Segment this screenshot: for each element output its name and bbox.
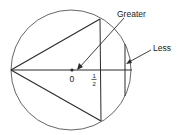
less-arrow	[129, 50, 151, 62]
greater-arrow	[79, 18, 124, 68]
less-arrowhead-icon	[126, 59, 132, 64]
circle-chord-diagram: Greater Less 0 1 2	[0, 0, 178, 135]
vertical-chord-half	[100, 19, 101, 121]
less-label: Less	[153, 43, 171, 53]
triangle-lower-side	[11, 70, 101, 121]
greater-label: Greater	[117, 9, 146, 19]
half-label-denominator: 2	[93, 81, 97, 87]
center-point	[70, 68, 73, 71]
center-label: 0	[70, 74, 75, 84]
triangle-upper-side	[11, 19, 100, 70]
half-label-numerator: 1	[93, 73, 97, 79]
